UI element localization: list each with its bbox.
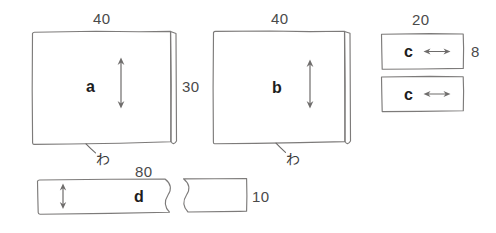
piece-c2-width-arrow (424, 91, 451, 97)
piece-b-height-arrow (307, 60, 314, 109)
piece-label-b: b (272, 79, 282, 97)
piece-c1-group (382, 34, 464, 70)
dimension-d-height: 10 (252, 188, 270, 205)
diagram-artwork (0, 0, 496, 233)
piece-d-right-segment (184, 179, 247, 212)
piece-c2-body (382, 76, 464, 111)
piece-a-group (32, 31, 176, 153)
piece-c1-body (382, 34, 464, 70)
pattern-diagram-canvas: 40 30 40 20 8 80 10 a b c c d わ わ (0, 0, 496, 233)
piece-b-fold-leader (276, 143, 286, 152)
dimension-d-width: 80 (135, 163, 153, 180)
fold-mark-b: わ (286, 148, 300, 168)
piece-d-left-segment (38, 179, 171, 214)
dimension-b-width: 40 (271, 10, 289, 27)
piece-label-a: a (86, 78, 95, 96)
piece-label-d: d (134, 188, 144, 206)
dimension-c-width: 20 (412, 11, 430, 28)
piece-d-height-arrow (60, 184, 66, 210)
piece-a-body (32, 31, 171, 144)
fold-mark-a: わ (96, 148, 110, 168)
dimension-a-width: 40 (93, 10, 111, 27)
piece-c2-group (382, 76, 464, 111)
piece-label-c2: c (404, 86, 413, 104)
piece-a-fold-leader (86, 144, 96, 153)
piece-c1-width-arrow (424, 49, 451, 55)
piece-a-height-arrow (118, 58, 125, 109)
piece-label-c1: c (404, 43, 413, 61)
dimension-c-height: 8 (471, 43, 480, 60)
dimension-a-height: 30 (182, 78, 200, 95)
